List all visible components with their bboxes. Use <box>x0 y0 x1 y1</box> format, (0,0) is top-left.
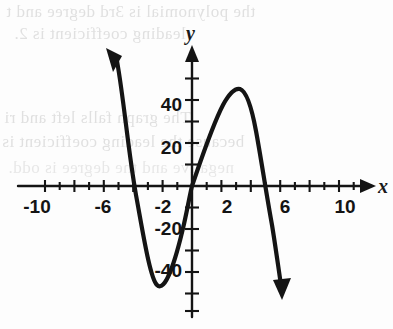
y-axis-arrow-icon <box>185 45 199 62</box>
y-tick-label-pos40: 40 <box>148 94 182 116</box>
y-tick-label-pos20: 20 <box>148 137 182 159</box>
x-tick-label-neg10: -10 <box>23 196 50 218</box>
x-tick-label-neg2: -2 <box>155 196 172 218</box>
coordinate-plane <box>0 0 393 329</box>
x-tick-label-pos10: 10 <box>334 196 355 218</box>
x-tick-label-pos2: 2 <box>222 196 233 218</box>
y-tick-label-neg20: -20 <box>139 218 182 240</box>
curve-right-arrow-icon <box>273 278 291 300</box>
y-axis-label: y <box>186 22 195 45</box>
x-tick-label-pos6: 6 <box>280 196 291 218</box>
x-axis-label: x <box>378 175 388 198</box>
cubic-curve <box>117 61 281 286</box>
x-axis-arrow-icon <box>360 179 376 193</box>
y-tick-label-neg40: -40 <box>139 260 182 282</box>
x-tick-label-neg6: -6 <box>95 196 112 218</box>
figure-page: the polynomial is 3rd degree and t leadi… <box>0 0 393 329</box>
